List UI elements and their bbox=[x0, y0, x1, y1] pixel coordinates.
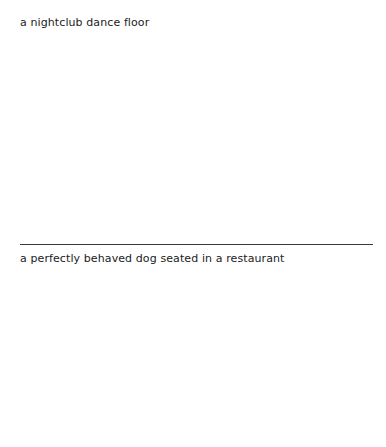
caption-panel-bottom bbox=[0, 245, 386, 447]
section-divider bbox=[20, 244, 373, 245]
caption-nightclub: a nightclub dance floor bbox=[20, 16, 149, 30]
caption-dog-restaurant: a perfectly behaved dog seated in a rest… bbox=[20, 252, 285, 266]
caption-panel-top bbox=[0, 0, 386, 244]
